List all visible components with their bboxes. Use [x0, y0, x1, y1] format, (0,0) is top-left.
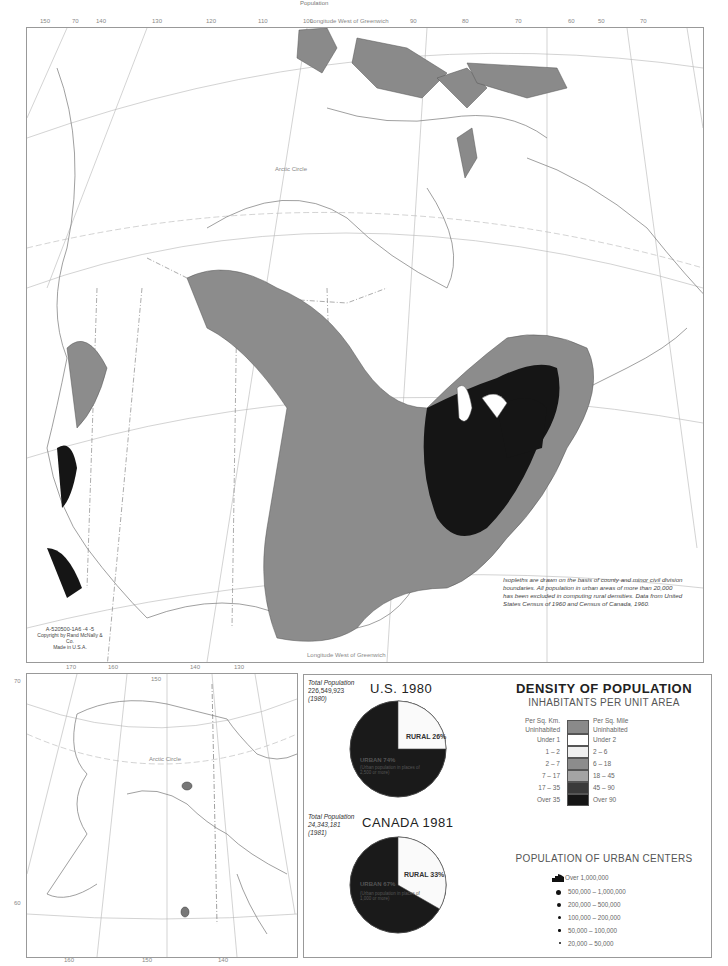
alaska-inset: Arctic Circle [26, 673, 298, 958]
us-total-label: Total Population [308, 679, 354, 687]
alaska-lon-tick: 140 [218, 957, 228, 963]
canada-urban-label: URBAN 67% [360, 881, 395, 887]
density-swatch-17-35 [567, 782, 589, 794]
density-mile-label: Uninhabited [593, 726, 628, 736]
density-km-label: 17 – 35 [500, 784, 560, 794]
urban-row-label: 500,000 – 1,000,000 [568, 888, 626, 895]
map-note: Isopleths are drawn on the basis of coun… [503, 576, 683, 608]
us-pie-chart [348, 699, 448, 799]
lon-tick: 80 [462, 18, 469, 24]
density-swatch-uninhabited [567, 720, 589, 734]
density-swatch-1-2 [567, 746, 589, 758]
lon-tick: 130 [152, 18, 162, 24]
canada-total-value: 24,343,181 [308, 821, 354, 829]
canada-pie-title: CANADA 1981 [362, 815, 454, 830]
credit-made-in: Made in U.S.A. [35, 644, 105, 650]
canada-total-label: Total Population [308, 813, 354, 821]
us-pie-title: U.S. 1980 [370, 681, 432, 696]
alaska-lon-tick: 140 [190, 664, 200, 670]
arctic-islands [297, 28, 567, 178]
us-rural-label: RURAL 26% [406, 733, 446, 740]
density-mile-label: 45 – 90 [593, 784, 615, 794]
alaska-lat-tick: 60 [14, 900, 21, 906]
density-legend-subtitle: INHABITANTS PER UNIT AREA [500, 697, 708, 708]
density-swatch-2-7 [567, 758, 589, 770]
lon-tick: 50 [598, 18, 605, 24]
alaska-lon-tick: 150 [142, 957, 152, 963]
arctic-circle-label: Arctic Circle [275, 166, 307, 172]
urban-area-icon [552, 874, 564, 882]
density-km-label: 2 – 7 [500, 760, 560, 770]
canada-total-population: Total Population 24,343,181 (1981) [308, 813, 354, 837]
lon-tick: 70 [640, 18, 647, 24]
density-km-label: Uninhabited [500, 726, 560, 736]
canada-urban-sub: (Urban population in places of 1,000 or … [360, 891, 420, 901]
us-urban-label: URBAN 74% [360, 757, 395, 763]
lon-tick: 70 [72, 18, 79, 24]
canada-rural-label: RURAL 33% [404, 871, 444, 878]
urban-row-label: 200,000 – 500,000 [568, 901, 621, 908]
alaska-lon-tick: 170 [66, 664, 76, 670]
dot-large-icon [556, 890, 561, 895]
density-km-label: Under 1 [500, 736, 560, 746]
longitude-label-top: Longitude West of Greenwich [310, 18, 389, 24]
density-mile-label: 2 – 6 [593, 748, 607, 758]
density-swatch-over-35 [567, 794, 589, 806]
us-total-value: 226,549,923 [308, 687, 354, 695]
lon-tick: 60 [568, 18, 575, 24]
lon-tick: 140 [96, 18, 106, 24]
lon-tick: 90 [410, 18, 417, 24]
legend-panel: Total Population 226,549,923 (1980) U.S.… [303, 674, 712, 958]
urban-row-label: Over 1,000,000 [565, 874, 608, 881]
page-header: Population [300, 0, 328, 6]
longitude-label-bottom: Longitude West of Greenwich [307, 652, 386, 658]
urban-row-label: 20,000 – 50,000 [568, 940, 614, 947]
density-legend-title: DENSITY OF POPULATION [500, 681, 708, 696]
lon-tick: 70 [515, 18, 522, 24]
alaska-lon-tick: 160 [108, 664, 118, 670]
density-km-label: Over 35 [500, 796, 560, 806]
density-swatch-7-17 [567, 770, 589, 782]
lon-tick: 150 [40, 18, 50, 24]
dot-small-icon [558, 916, 561, 919]
dot-medium-icon [557, 903, 561, 907]
lon-tick: 120 [206, 18, 216, 24]
density-km-label: 1 – 2 [500, 748, 560, 758]
density-km-label: 7 – 17 [500, 772, 560, 782]
density-mile-label: Over 90 [593, 796, 616, 806]
urban-legend-title: POPULATION OF URBAN CENTERS [500, 853, 708, 864]
urban-row-label: 50,000 – 100,000 [568, 927, 617, 934]
main-map-graphic [27, 28, 703, 662]
urban-row-label: 100,000 – 200,000 [568, 914, 621, 921]
density-swatch-under-1 [567, 734, 589, 746]
alaska-lon-tick: 160 [64, 957, 74, 963]
main-map: 60 50 40 30 Isopleths are drawn on the b… [26, 27, 704, 663]
alaska-lon-tick: 150 [151, 676, 161, 682]
dot-smaller-icon [558, 929, 561, 932]
lon-tick: 100 [303, 18, 313, 24]
lon-tick: 110 [258, 18, 268, 24]
alaska-arctic-circle-label: Arctic Circle [149, 756, 181, 762]
map-credit: A-520500-1A6 -4 -5 Copyright by Rand McN… [35, 626, 105, 650]
density-mile-label: Under 2 [593, 736, 616, 746]
density-mile-label: 18 – 45 [593, 772, 615, 782]
alaska-inset-graphic [27, 674, 297, 957]
alaska-lat-tick: 70 [14, 678, 21, 684]
density-mile-label: 6 – 18 [593, 760, 611, 770]
credit-copyright: Copyright by Rand McNally & Co. [35, 632, 105, 644]
alaska-lon-tick: 130 [234, 664, 244, 670]
us-urban-sub: (Urban population in places of 2,500 or … [360, 765, 420, 775]
dot-smallest-icon [559, 942, 561, 944]
